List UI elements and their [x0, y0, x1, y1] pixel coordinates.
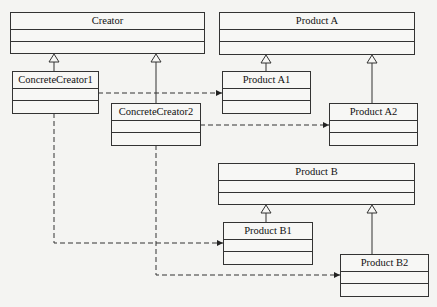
- methods-section: [223, 101, 310, 113]
- class-product-b2: Product B2: [340, 254, 429, 297]
- attributes-section: [223, 89, 310, 101]
- class-name: Product B2: [341, 255, 428, 272]
- class-name: Product B: [219, 164, 414, 181]
- class-product-a1: Product A1: [222, 71, 311, 114]
- class-name: Product A1: [223, 72, 310, 89]
- class-product-a: Product A: [219, 12, 415, 55]
- generalization-arrow-icon: [261, 205, 271, 213]
- generalization-arrow-icon: [367, 205, 377, 213]
- methods-section: [330, 133, 417, 145]
- attributes-section: [11, 30, 204, 42]
- attributes-section: [341, 272, 428, 284]
- class-name: Product A: [220, 13, 414, 30]
- methods-section: [220, 42, 414, 54]
- generalization-arrow-icon: [49, 54, 59, 62]
- class-name: Product A2: [330, 104, 417, 121]
- attributes-section: [224, 240, 312, 252]
- class-name: ConcreteCreator2: [112, 104, 200, 121]
- methods-section: [219, 193, 414, 204]
- attributes-section: [13, 89, 98, 101]
- class-product-a2: Product A2: [329, 103, 418, 146]
- class-name: ConcreteCreator1: [13, 72, 98, 89]
- methods-section: [224, 252, 312, 264]
- attributes-section: [220, 30, 414, 42]
- class-creator: Creator: [10, 12, 205, 54]
- generalization-arrow-icon: [261, 55, 271, 63]
- attributes-section: [330, 121, 417, 133]
- class-product-b: Product B: [218, 163, 415, 205]
- attributes-section: [219, 181, 414, 193]
- methods-section: [11, 42, 204, 53]
- generalization-arrow-icon: [367, 55, 377, 63]
- class-concrete-creator1: ConcreteCreator1: [12, 71, 99, 114]
- class-concrete-creator2: ConcreteCreator2: [111, 103, 201, 146]
- attributes-section: [112, 121, 200, 133]
- class-product-b1: Product B1: [223, 222, 313, 265]
- methods-section: [13, 101, 98, 113]
- class-name: Creator: [11, 13, 204, 30]
- methods-section: [341, 284, 428, 296]
- class-name: Product B1: [224, 223, 312, 240]
- methods-section: [112, 133, 200, 145]
- generalization-arrow-icon: [151, 54, 161, 62]
